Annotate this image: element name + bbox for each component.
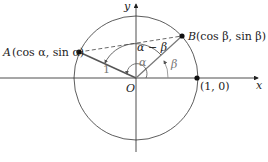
unit-circle-diagram: y x O A (cos α, sin α) B (cos β, sin β) …: [0, 0, 268, 162]
origin-label: O: [126, 82, 135, 95]
arc-beta: [164, 61, 168, 78]
radius-label: 1: [103, 63, 110, 76]
y-axis-label: y: [123, 0, 131, 13]
x-axis-label: x: [256, 79, 263, 92]
angle-beta-label: β: [170, 58, 177, 71]
point-B: [179, 33, 184, 38]
point-B-name: B: [187, 30, 196, 43]
point-1-0: [194, 75, 199, 80]
point-1-0-coords: (1, 0): [200, 80, 230, 93]
point-A-name: A: [2, 46, 11, 59]
point-A-coords: (cos α, sin α): [12, 46, 84, 59]
angle-diff-label: α − β: [137, 41, 167, 54]
angle-alpha-label: α: [139, 56, 147, 69]
point-B-coords: (cos β, sin β): [196, 30, 266, 43]
